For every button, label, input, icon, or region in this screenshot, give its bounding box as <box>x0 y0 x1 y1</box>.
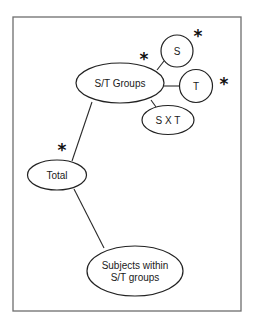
total-significance-marker: * <box>58 140 67 160</box>
node-total: Total * <box>28 140 87 190</box>
node-st-groups: S/T Groups * <box>76 49 164 103</box>
partition-diagram: S/T Groups * S * T * S X T Total * Subje… <box>0 0 254 327</box>
subjects-label-line1: Subjects within <box>102 260 169 271</box>
subjects-label-line2: S/T groups <box>111 272 160 283</box>
node-subjects: Subjects within S/T groups <box>87 246 183 296</box>
st-groups-significance-marker: * <box>140 49 149 69</box>
edge-st-groups-to-sxt <box>151 100 156 107</box>
total-label: Total <box>46 170 67 181</box>
node-t: T * <box>180 70 229 103</box>
s-significance-marker: * <box>194 26 203 46</box>
t-label: T <box>193 81 199 92</box>
node-sxt: S X T <box>142 106 194 135</box>
edge-st-groups-to-s <box>157 61 164 70</box>
sxt-label: S X T <box>156 115 181 126</box>
node-s: S * <box>161 26 203 67</box>
s-label: S <box>174 46 181 57</box>
edge-total-to-st-groups <box>72 102 92 161</box>
t-significance-marker: * <box>220 74 229 94</box>
st-groups-label: S/T Groups <box>95 78 146 89</box>
edge-total-to-subjects <box>74 189 104 248</box>
